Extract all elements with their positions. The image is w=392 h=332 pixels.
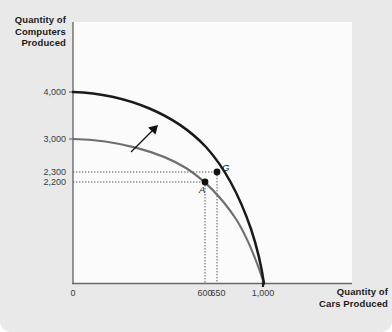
- chart-svg: [0, 0, 392, 332]
- data-point-G: [214, 169, 221, 176]
- data-point-A: [202, 179, 209, 186]
- curve-original-frontier: [73, 139, 264, 284]
- curve-new-frontier: [73, 92, 264, 284]
- shift-arrow-icon: [131, 125, 158, 152]
- figure-panel: Quantity of Computers Produced Quantity …: [0, 0, 392, 332]
